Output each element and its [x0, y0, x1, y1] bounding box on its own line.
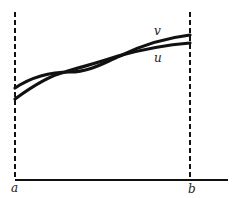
label-u: u — [154, 51, 162, 65]
label-b: b — [188, 182, 196, 196]
label-a: a — [11, 181, 18, 195]
label-v: v — [154, 24, 161, 38]
curve-u — [15, 43, 190, 99]
diagram-canvas: v u a b — [0, 0, 239, 198]
